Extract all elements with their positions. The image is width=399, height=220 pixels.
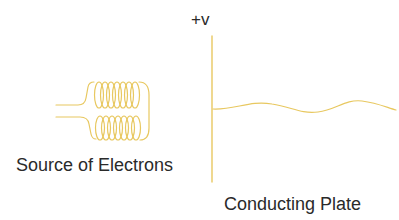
- electron-wave: [213, 101, 396, 113]
- voltage-label: +v: [191, 11, 209, 28]
- filament-lead-top: [56, 82, 94, 105]
- coil-bottom: [96, 116, 141, 140]
- electron-diagram: +v Source of Electrons Conducting Plate: [0, 0, 399, 220]
- source-label: Source of Electrons: [16, 156, 173, 174]
- diagram-graphic: [0, 0, 399, 220]
- plate-label: Conducting Plate: [224, 195, 361, 213]
- filament-lead-bottom: [56, 117, 96, 139]
- coil-top: [95, 82, 140, 108]
